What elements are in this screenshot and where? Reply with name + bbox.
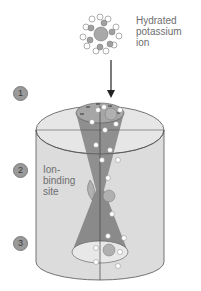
hydrated-potassium-ion xyxy=(80,14,122,54)
binding-site-label-line2: binding xyxy=(43,175,75,186)
ion-channel-diagram xyxy=(0,0,201,291)
step-2-marker: 2 xyxy=(13,163,28,178)
binding-site-label-line1: Ion- xyxy=(43,164,60,175)
hydrated-ion-label-line3: ion xyxy=(136,37,149,48)
step-1-marker: 1 xyxy=(13,86,28,101)
hydrated-ion-label-line2: potassium xyxy=(136,26,182,37)
binding-site-label-line3: site xyxy=(43,186,59,197)
step-3-marker: 3 xyxy=(13,236,28,251)
hydrated-ion-label-line1: Hydrated xyxy=(136,15,177,26)
